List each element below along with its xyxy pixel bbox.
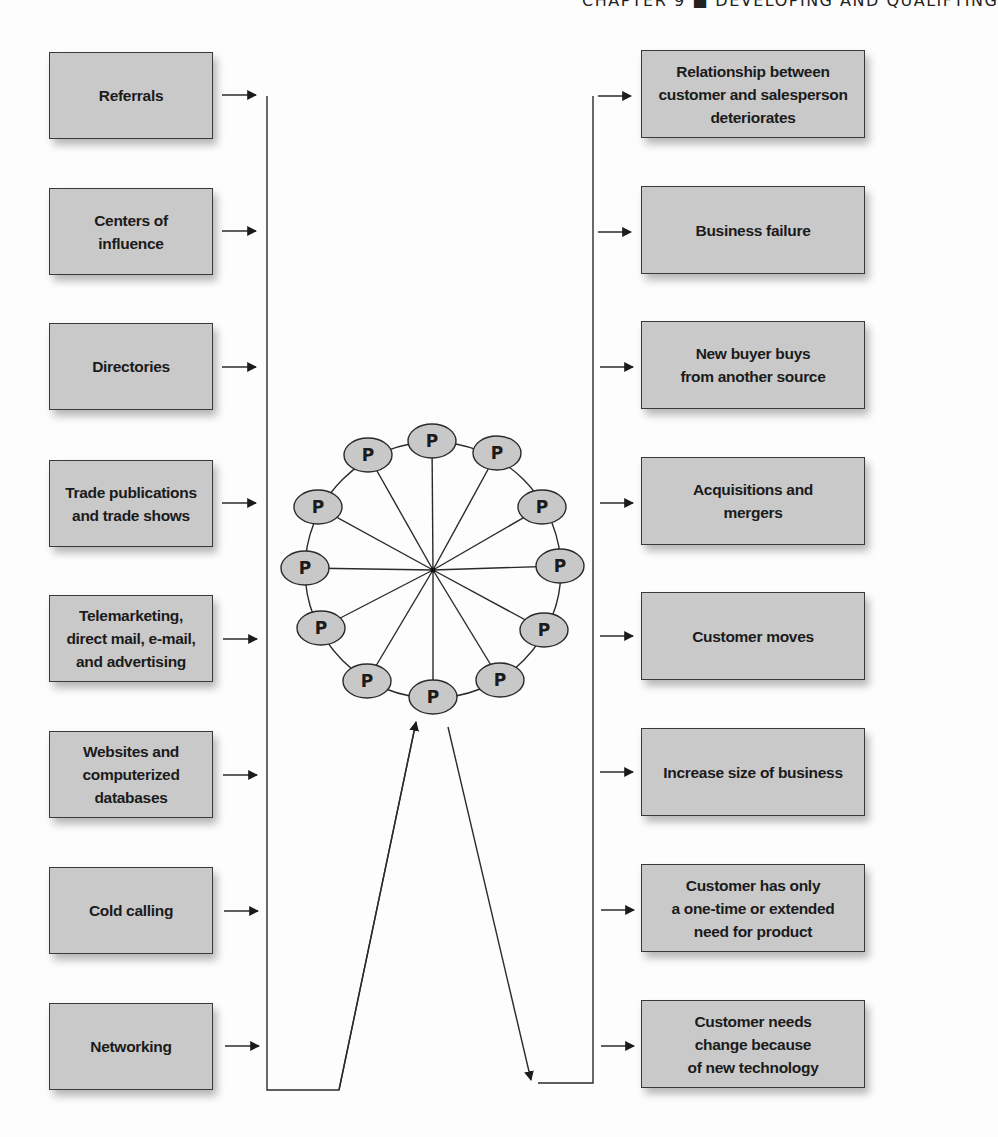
prospect-node-label: P xyxy=(476,663,524,697)
outcome-box-one-time-need: Customer has only a one-time or extended… xyxy=(641,864,865,952)
prospect-node-label: P xyxy=(297,611,345,645)
prospect-node-label: P xyxy=(408,424,456,458)
outcome-box-customer-moves: Customer moves xyxy=(641,592,865,680)
prospect-node-label: P xyxy=(294,490,342,524)
outcome-box-business-failure: Business failure xyxy=(641,186,865,274)
prospect-node-label: P xyxy=(536,549,584,583)
source-box-cold-calling: Cold calling xyxy=(49,867,213,954)
outcome-box-relationship-deteriorates: Relationship between customer and salesp… xyxy=(641,50,865,138)
source-box-telemarketing: Telemarketing, direct mail, e-mail, and … xyxy=(49,595,213,682)
left-bracket-line xyxy=(267,96,416,1090)
prospect-node-label: P xyxy=(409,680,457,714)
source-box-directories: Directories xyxy=(49,323,213,410)
outcome-box-new-technology: Customer needs change because of new tec… xyxy=(641,1000,865,1088)
source-box-centers-of-influence: Centers of influence xyxy=(49,188,213,275)
outcome-box-new-buyer: New buyer buys from another source xyxy=(641,321,865,409)
outcome-box-increase-size: Increase size of business xyxy=(641,728,865,816)
prospect-node-label: P xyxy=(520,613,568,647)
outcome-box-acquisitions: Acquisitions and mergers xyxy=(641,457,865,545)
prospect-node-label: P xyxy=(281,551,329,585)
source-box-networking: Networking xyxy=(49,1003,213,1090)
prospect-node-label: P xyxy=(344,438,392,472)
prospect-node-label: P xyxy=(343,664,391,698)
source-box-trade-publications: Trade publications and trade shows xyxy=(49,460,213,547)
source-box-referrals: Referrals xyxy=(49,52,213,139)
source-box-websites: Websites and computerized databases xyxy=(49,731,213,818)
prospect-node-label: P xyxy=(518,490,566,524)
right-bracket-line xyxy=(538,96,593,1083)
prospect-node-label: P xyxy=(473,436,521,470)
